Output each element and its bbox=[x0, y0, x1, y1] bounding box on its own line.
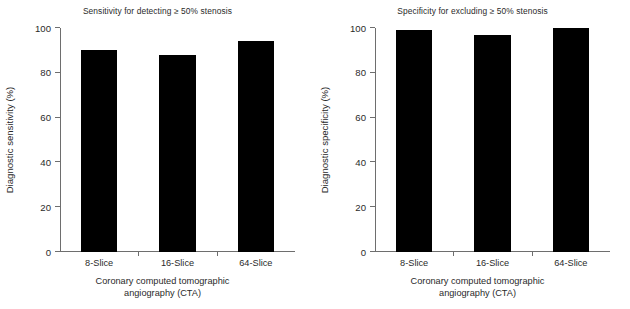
x-axis-category-label: 16-Slice bbox=[161, 258, 194, 268]
bar-64-slice bbox=[553, 28, 589, 252]
y-axis-caption-sensitivity: Diagnostic sensitivity (%) bbox=[4, 28, 18, 252]
y-axis-tick-label: 20 bbox=[355, 201, 366, 212]
figure-two-panel-bar-charts: Sensitivity for detecting ≥ 50% stenosis… bbox=[0, 0, 630, 309]
bar-series-sensitivity bbox=[60, 28, 295, 252]
x-axis-caption-line1: Coronary computed tomographic bbox=[345, 275, 610, 287]
x-axis-category-label: 8-Slice bbox=[400, 258, 428, 268]
x-axis-caption-line2: angiography (CTA) bbox=[30, 287, 295, 299]
panel-specificity: Specificity for excluding ≥ 50% stenosis… bbox=[315, 0, 630, 309]
bar-8-slice bbox=[81, 50, 117, 252]
x-axis-tick bbox=[138, 252, 139, 256]
y-axis-tick-label: 60 bbox=[40, 112, 51, 123]
x-axis-category-label: 64-Slice bbox=[239, 258, 272, 268]
plot-area-specificity: 020406080100 bbox=[375, 28, 610, 252]
y-axis-tick-label: 0 bbox=[46, 246, 51, 257]
x-axis-category-labels-sensitivity: 8-Slice16-Slice64-Slice bbox=[60, 258, 295, 272]
panel-sensitivity: Sensitivity for detecting ≥ 50% stenosis… bbox=[0, 0, 315, 309]
x-axis-caption-line1: Coronary computed tomographic bbox=[30, 275, 295, 287]
y-axis-tick-label: 80 bbox=[355, 67, 366, 78]
x-axis-caption-specificity: Coronary computed tomographic angiograph… bbox=[345, 275, 610, 299]
y-axis-caption-specificity: Diagnostic specificity (%) bbox=[319, 28, 333, 252]
y-axis-tick-label: 100 bbox=[35, 22, 51, 33]
plot-area-sensitivity: 020406080100 bbox=[60, 28, 295, 252]
x-axis-caption-line2: angiography (CTA) bbox=[345, 287, 610, 299]
y-axis-tick-label: 0 bbox=[361, 246, 366, 257]
y-axis-tick-label: 40 bbox=[40, 156, 51, 167]
y-axis-tick-label: 60 bbox=[355, 112, 366, 123]
x-axis-category-label: 8-Slice bbox=[85, 258, 113, 268]
x-axis-category-label: 16-Slice bbox=[476, 258, 509, 268]
y-axis-tick-label: 80 bbox=[40, 67, 51, 78]
x-axis-tick bbox=[453, 252, 454, 256]
x-axis-caption-sensitivity: Coronary computed tomographic angiograph… bbox=[30, 275, 295, 299]
chart-title-sensitivity: Sensitivity for detecting ≥ 50% stenosis bbox=[0, 6, 315, 16]
bar-16-slice bbox=[159, 55, 195, 252]
chart-title-specificity: Specificity for excluding ≥ 50% stenosis bbox=[315, 6, 630, 16]
bar-16-slice bbox=[474, 35, 510, 252]
y-axis-tick-label: 100 bbox=[350, 22, 366, 33]
y-axis-tick-label: 40 bbox=[355, 156, 366, 167]
bar-series-specificity bbox=[375, 28, 610, 252]
y-axis-tick-label: 20 bbox=[40, 201, 51, 212]
bar-64-slice bbox=[238, 41, 274, 252]
x-axis-category-label: 64-Slice bbox=[554, 258, 587, 268]
x-axis-category-labels-specificity: 8-Slice16-Slice64-Slice bbox=[375, 258, 610, 272]
x-axis-tick bbox=[217, 252, 218, 256]
x-axis-tick bbox=[532, 252, 533, 256]
bar-8-slice bbox=[396, 30, 432, 252]
